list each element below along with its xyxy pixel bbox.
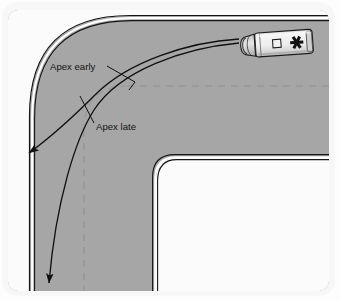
label-apex-late: Apex late	[96, 121, 136, 132]
inner-block	[156, 158, 329, 291]
road-corner-diagram: Apex early Apex late	[8, 10, 329, 291]
roof-hatch-icon	[272, 39, 281, 48]
ambulance-rear-panel	[306, 31, 313, 52]
figure-frame: Apex early Apex late	[8, 10, 329, 291]
label-apex-early: Apex early	[50, 61, 96, 72]
screenshot-root: Apex early Apex late	[0, 0, 340, 301]
